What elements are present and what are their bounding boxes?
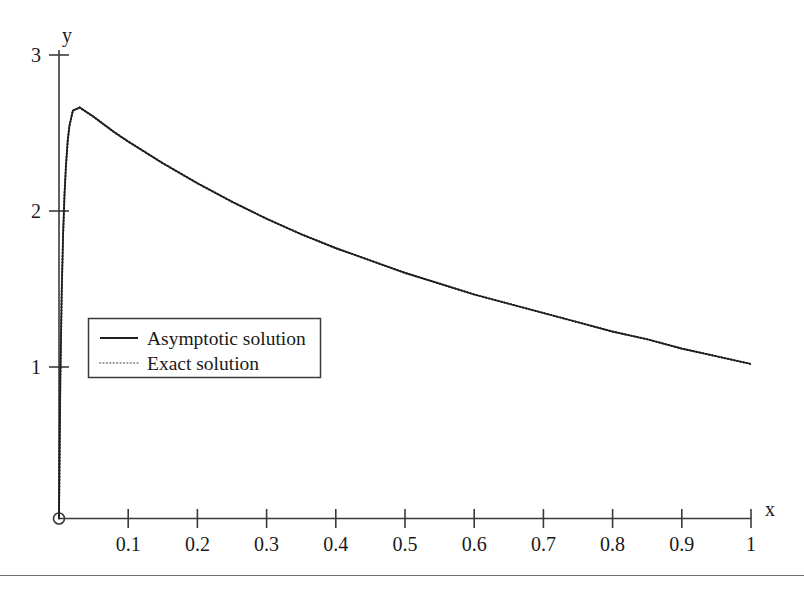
page-rule-divider [0, 575, 804, 576]
chart-canvas: 3 2 1 y 0.1 0.2 0.3 0.4 0.5 0.6 0.7 0.8 … [0, 0, 804, 592]
x-tick-label-0-4: 0.4 [323, 533, 348, 555]
series-asymptotic-solution [59, 108, 751, 519]
y-axis-label: y [62, 24, 72, 47]
x-tick-label-0-1: 0.1 [116, 533, 141, 555]
y-tick-label-3: 3 [31, 44, 41, 66]
x-axis-label: x [765, 498, 775, 520]
x-tick-label-0-2: 0.2 [185, 533, 210, 555]
x-tick-label-0-6: 0.6 [462, 533, 487, 555]
x-tick-label-0-9: 0.9 [669, 533, 694, 555]
x-tick-label-0-5: 0.5 [393, 533, 418, 555]
legend-label-asymptotic-solution: Asymptotic solution [147, 328, 306, 349]
x-tick-label-0-8: 0.8 [600, 533, 625, 555]
y-tick-label-1: 1 [31, 356, 41, 378]
x-tick-label-1: 1 [746, 533, 756, 555]
x-tick-label-0-3: 0.3 [254, 533, 279, 555]
series-exact-solution [59, 108, 751, 519]
figure-container: 3 2 1 y 0.1 0.2 0.3 0.4 0.5 0.6 0.7 0.8 … [0, 0, 804, 592]
y-tick-label-2: 2 [31, 200, 41, 222]
legend-label-exact-solution: Exact solution [147, 353, 259, 374]
x-tick-label-0-7: 0.7 [531, 533, 556, 555]
legend: Asymptotic solution Exact solution [89, 319, 321, 378]
